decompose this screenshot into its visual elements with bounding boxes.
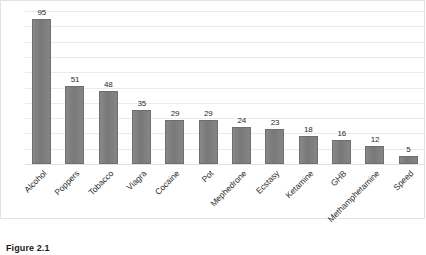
- bar[interactable]: [65, 86, 84, 164]
- x-axis-category-label-text: GHB: [329, 169, 348, 188]
- bar[interactable]: [299, 136, 318, 164]
- bar-value-label: 51: [58, 75, 91, 84]
- bar[interactable]: [199, 120, 218, 164]
- x-axis-category-label-text: Alcohol: [23, 169, 49, 195]
- bar-slot: 29: [192, 11, 225, 164]
- bar-slot: 95: [25, 11, 58, 164]
- x-axis-category-label[interactable]: Mephedrone: [225, 167, 258, 219]
- bar-slot: 35: [125, 11, 158, 164]
- x-axis-category-label[interactable]: Tobacco: [92, 167, 125, 219]
- x-axis-category-label-text: Poppers: [53, 169, 81, 197]
- bar-value-label: 35: [125, 99, 158, 108]
- x-axis-category-label[interactable]: Speed: [392, 167, 425, 219]
- x-axis-category-label-text: Speed: [392, 169, 415, 192]
- bar-slot: 48: [92, 11, 125, 164]
- plot-area: 1009080706050403020100 95514835292924231…: [25, 11, 425, 164]
- bar-value-label: 24: [225, 116, 258, 125]
- x-axis-category-label[interactable]: Alcohol: [25, 167, 58, 219]
- bar-series: 95514835292924231816125: [25, 11, 425, 164]
- x-axis-category-label-text: Pot: [200, 169, 215, 184]
- figure-caption: Figure 2.1: [6, 243, 50, 253]
- bar-slot: 24: [225, 11, 258, 164]
- bar-value-label: 95: [25, 8, 58, 17]
- x-axis-category-label-text: Cocaine: [154, 169, 182, 197]
- bar-slot: 51: [58, 11, 91, 164]
- x-axis-category-label[interactable]: Ketamine: [292, 167, 325, 219]
- bar-value-label: 48: [92, 80, 125, 89]
- bar[interactable]: [232, 127, 251, 164]
- bar-value-label: 29: [192, 109, 225, 118]
- x-axis-category-label-text: Ecstasy: [255, 169, 282, 196]
- bar[interactable]: [32, 19, 51, 164]
- x-axis-category-label-text: Viagra: [125, 169, 148, 192]
- bar[interactable]: [132, 110, 151, 164]
- bar-slot: 29: [158, 11, 191, 164]
- figure-container: 1009080706050403020100 95514835292924231…: [0, 0, 426, 255]
- bar-value-label: 16: [325, 129, 358, 138]
- bar-value-label: 23: [258, 118, 291, 127]
- bar[interactable]: [165, 120, 184, 164]
- bar-value-label: 12: [358, 135, 391, 144]
- bar-slot: 18: [292, 11, 325, 164]
- x-axis-category-label[interactable]: Poppers: [58, 167, 91, 219]
- bar-value-label: 18: [292, 125, 325, 134]
- x-axis-category-label[interactable]: Cocaine: [158, 167, 191, 219]
- x-axis-category-label[interactable]: Viagra: [125, 167, 158, 219]
- x-axis-category-label-text: Tobacco: [87, 169, 115, 197]
- x-axis-category-labels: AlcoholPoppersTobaccoViagraCocainePotMep…: [25, 167, 425, 219]
- bar-value-label: 29: [158, 109, 191, 118]
- bar-slot: 16: [325, 11, 358, 164]
- bar-slot: 12: [358, 11, 391, 164]
- x-axis-category-label[interactable]: Methamphetamine: [358, 167, 391, 219]
- chart-frame: 1009080706050403020100 95514835292924231…: [0, 0, 425, 219]
